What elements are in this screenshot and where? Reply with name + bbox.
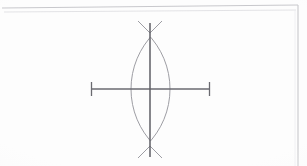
geometric-construction-drawing xyxy=(0,0,307,166)
paper-top-edge xyxy=(2,5,298,8)
scanned-document-canvas xyxy=(0,0,307,166)
lower-intersection-arc-tail-left xyxy=(138,146,150,158)
lower-intersection-arc-tail-right xyxy=(150,146,162,158)
paper-inner-fold-line xyxy=(4,10,296,12)
upper-intersection-arc-tail-left xyxy=(138,21,150,33)
upper-intersection-arc-tail-right xyxy=(150,21,162,33)
